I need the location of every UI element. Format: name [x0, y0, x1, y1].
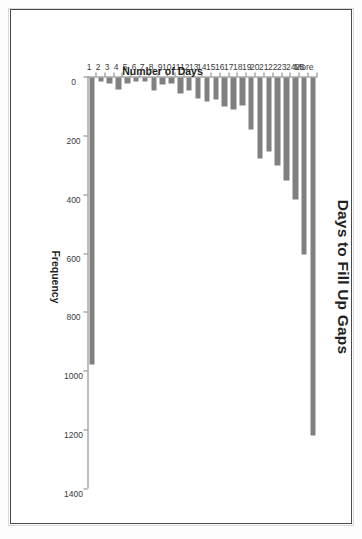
bar	[195, 78, 200, 99]
value-tick	[83, 253, 87, 254]
category-tick	[281, 73, 282, 77]
value-tick-label: 800	[66, 312, 80, 322]
value-tick	[83, 489, 87, 490]
category-tick	[272, 73, 273, 77]
bar	[133, 78, 138, 82]
bar	[221, 78, 226, 107]
value-tick	[83, 312, 87, 313]
value-tick-label: 200	[66, 135, 80, 145]
bar	[98, 78, 103, 82]
category-tick	[298, 73, 299, 77]
bar	[274, 78, 279, 166]
category-tick	[104, 73, 105, 77]
category-tick	[307, 73, 308, 77]
bar	[89, 78, 94, 365]
value-tick-label: 1200	[64, 430, 83, 440]
category-tick-label: 18	[232, 62, 241, 72]
x-axis-title: Number of Days	[122, 65, 203, 77]
category-tick	[263, 73, 264, 77]
bar	[186, 78, 191, 91]
bar	[204, 78, 209, 102]
category-tick-label: 1	[87, 62, 92, 72]
bar	[257, 78, 262, 159]
bar	[230, 78, 235, 110]
plot-area: 0200400600800100012001400 12345678910111…	[87, 77, 317, 489]
bar	[310, 78, 315, 436]
category-tick	[316, 73, 317, 77]
value-tick	[83, 77, 87, 78]
bar	[301, 78, 306, 255]
chart-title: Days to Fill Up Gaps	[333, 25, 351, 530]
bar	[213, 78, 218, 100]
bar	[142, 78, 147, 82]
bar	[106, 78, 111, 84]
category-tick-label: 15	[206, 62, 215, 72]
category-tick	[228, 73, 229, 77]
value-tick-label: 0	[71, 77, 76, 87]
category-tick-label: 23	[277, 62, 286, 72]
bar	[292, 78, 297, 200]
category-tick	[289, 73, 290, 77]
category-axis-line	[87, 77, 317, 78]
category-tick-label: 22	[268, 62, 277, 72]
chart-frame-border: Days to Fill Up Gaps 0200400600800100012…	[10, 9, 352, 524]
category-tick-label: More	[293, 62, 312, 72]
bar	[151, 78, 156, 91]
bar	[283, 78, 288, 181]
scanned-chart-page: Days to Fill Up Gaps 0200400600800100012…	[0, 0, 362, 539]
category-tick	[210, 73, 211, 77]
value-tick	[83, 371, 87, 372]
category-tick-label: 4	[113, 62, 118, 72]
category-tick-label: 16	[215, 62, 224, 72]
bar	[115, 78, 120, 90]
category-tick	[95, 73, 96, 77]
bar	[124, 78, 129, 84]
rotated-chart-canvas: Days to Fill Up Gaps 0200400600800100012…	[27, 25, 357, 530]
value-tick-label: 1000	[64, 371, 83, 381]
value-tick	[83, 430, 87, 431]
category-tick-label: 21	[259, 62, 268, 72]
category-tick-label: 2	[96, 62, 101, 72]
category-tick-label: 3	[104, 62, 109, 72]
category-tick-label: 17	[224, 62, 233, 72]
bar	[239, 78, 244, 106]
bar	[168, 78, 173, 84]
value-tick	[83, 135, 87, 136]
y-axis-title: Frequency	[49, 25, 61, 530]
value-tick	[83, 194, 87, 195]
category-tick	[245, 73, 246, 77]
category-tick	[236, 73, 237, 77]
value-tick-label: 400	[66, 194, 80, 204]
category-tick	[219, 73, 220, 77]
bar	[248, 78, 253, 130]
category-tick	[113, 73, 114, 77]
bar	[177, 78, 182, 94]
value-axis-line	[87, 77, 88, 489]
bar	[159, 78, 164, 85]
value-tick-label: 600	[66, 253, 80, 263]
bar	[266, 78, 271, 152]
value-tick-label: 1400	[64, 489, 83, 499]
category-tick	[254, 73, 255, 77]
